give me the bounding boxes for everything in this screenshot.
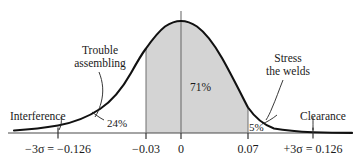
right-tail-percent-label: 5% — [249, 121, 264, 133]
annotation-trouble-assembling: Trouble assembling — [57, 44, 143, 70]
annotation-stress-the-welds: Stress the welds — [245, 52, 331, 78]
trouble-line-2: assembling — [57, 57, 143, 70]
left-tail-percent-label: 24% — [107, 117, 127, 129]
tick-label-007: 0.07 — [238, 143, 259, 156]
annotation-clearance: Clearance — [300, 110, 346, 123]
tick-label-neg3sigma: −3σ = −0.126 — [25, 143, 91, 156]
center-percent-label: 71% — [190, 81, 211, 94]
stress-line-1: Stress — [245, 52, 331, 65]
left-tail-leader-line — [92, 112, 104, 120]
right-tail-leader-line — [262, 115, 277, 124]
annotation-interference: Interference — [10, 110, 66, 123]
trouble-line-1: Trouble — [57, 44, 143, 57]
normal-distribution-figure: Trouble assembling Stress the welds Inte… — [0, 0, 361, 167]
tick-label-zero: 0 — [178, 143, 184, 156]
stress-line-2: the welds — [245, 65, 331, 78]
tick-label-neg003: −0.03 — [132, 143, 160, 156]
stress-leader-line — [266, 80, 283, 120]
tick-label-pos3sigma: +3σ = 0.126 — [283, 143, 342, 156]
